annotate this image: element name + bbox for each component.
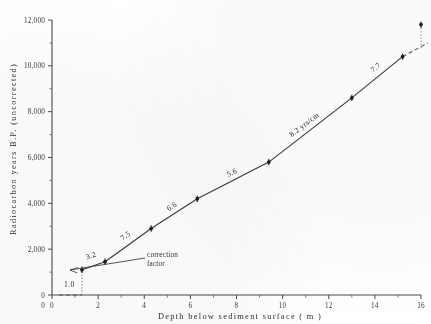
data-point-marker — [401, 55, 405, 59]
chart-canvas: 02,0004,0006,0008,00010,00012,000 024681… — [0, 0, 431, 324]
data-point-marker — [149, 227, 153, 231]
x-tick-label: 14 — [371, 302, 379, 310]
y-tick-label: 12,000 — [24, 17, 45, 25]
slope-label: 7.5 — [119, 229, 133, 242]
y-tick-label: 10,000 — [24, 62, 45, 70]
chart-axes — [52, 20, 421, 295]
y-tick-label: 6,000 — [28, 154, 45, 162]
x-tick-label: 12 — [325, 302, 333, 310]
correction-factor-line2: factor — [147, 260, 165, 268]
x-tick-label: 10 — [279, 302, 287, 310]
y-axis-ticks — [48, 20, 52, 295]
origin-label: 0 — [41, 302, 45, 310]
x-tick-label: 2 — [96, 302, 100, 310]
radiocarbon-depth-chart: 02,0004,0006,0008,00010,00012,000 024681… — [0, 0, 431, 324]
y-tick-label: 8,000 — [28, 108, 45, 116]
x-tick-label: 4 — [142, 302, 146, 310]
slope-label: 7.7 — [369, 61, 383, 75]
y-tick-label: 0 — [41, 292, 45, 300]
data-line-extrapolated — [403, 43, 428, 57]
x-axis-tick-labels: 02468101214160 — [41, 302, 425, 310]
y-axis-tick-labels: 02,0004,0006,0008,00010,00012,000 — [24, 17, 45, 300]
y-axis-title: Radiocarbon years B.P. (uncorrected) — [9, 63, 18, 235]
data-point-marker — [267, 160, 271, 164]
x-tick-label: 8 — [235, 302, 239, 310]
slope-label: 5.6 — [225, 166, 238, 179]
data-point-marker — [419, 23, 423, 27]
data-point-marker — [350, 96, 354, 100]
y-tick-label: 4,000 — [28, 200, 45, 208]
data-point-marker — [103, 260, 107, 264]
slope-label: 1.0 — [64, 280, 74, 289]
y-tick-label: 2,000 — [28, 246, 45, 254]
x-axis-title: Depth below sediment surface ( m ) — [158, 312, 322, 321]
x-tick-label: 0 — [50, 302, 54, 310]
segment-slope-labels: 1.03.27.56.65.68.2 yrs/cm7.7 — [64, 61, 382, 290]
slope-label: 6.6 — [165, 200, 179, 213]
slope-label: 3.2 — [84, 250, 97, 262]
correction-factor-line1: correction — [147, 251, 178, 259]
data-point-marker — [195, 197, 199, 201]
x-tick-label: 16 — [417, 302, 425, 310]
x-axis-ticks — [52, 295, 421, 299]
x-tick-label: 6 — [188, 302, 192, 310]
